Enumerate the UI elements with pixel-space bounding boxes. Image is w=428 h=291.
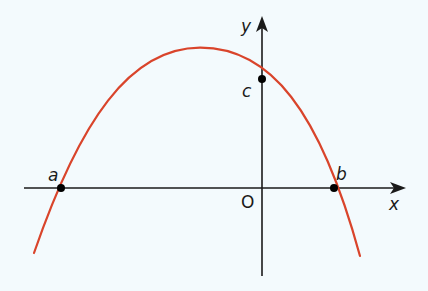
- x-axis-label: x: [388, 194, 400, 214]
- origin-label: O: [241, 192, 254, 212]
- point-a: [57, 184, 65, 192]
- y-axis: [256, 16, 268, 276]
- parabola-curve: [34, 48, 360, 256]
- parabola-diagram: a b c O x y: [0, 0, 428, 291]
- point-c: [258, 75, 266, 83]
- label-b: b: [336, 164, 347, 184]
- point-b: [330, 184, 338, 192]
- y-axis-label: y: [240, 16, 252, 36]
- x-axis: [24, 182, 406, 194]
- label-a: a: [48, 165, 58, 185]
- label-c: c: [242, 81, 252, 101]
